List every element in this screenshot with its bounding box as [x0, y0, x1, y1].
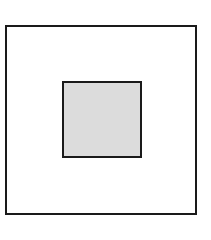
inner-square — [62, 81, 142, 158]
